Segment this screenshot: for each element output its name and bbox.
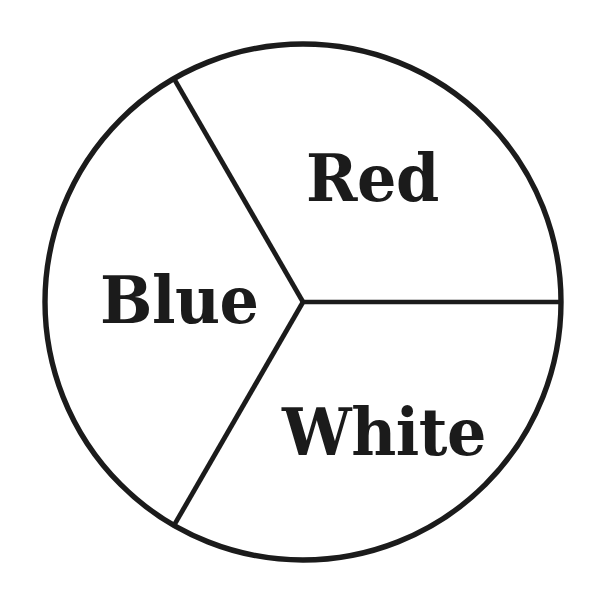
spinner-wheel [0,0,604,603]
pie-label-white: White [282,400,486,466]
spinner-figure: Red Blue White [0,0,604,603]
pie-label-blue: Blue [100,268,258,334]
pie-label-red: Red [306,146,439,212]
